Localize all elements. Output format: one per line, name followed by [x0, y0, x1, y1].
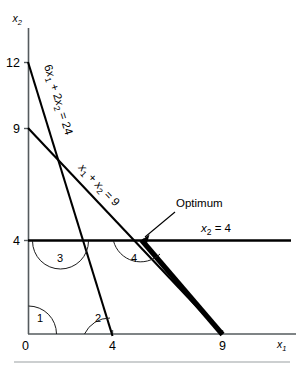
optimum-leader-line	[145, 212, 175, 237]
optimum-label: Optimum	[176, 197, 223, 209]
equation-label-6x1-2x2-24: 6x1 + 2x2 = 24	[39, 63, 75, 138]
y-tick-label-4: 4	[13, 234, 20, 248]
linear-programming-figure: 12 9 4 0 4 9 x2 x1 1 2 3 4 Optimum 6x1 +…	[0, 0, 304, 366]
region-label-3: 3	[57, 252, 63, 264]
x-tick-label-9: 9	[219, 339, 226, 353]
y-axis-label: x2	[12, 12, 23, 27]
region-label-1: 1	[37, 312, 43, 324]
region-label-4: 4	[131, 252, 137, 264]
equation-label-x2-4: x2 = 4	[200, 222, 232, 237]
y-tick-label-12: 12	[6, 56, 20, 70]
origin-label: 0	[22, 339, 29, 353]
constraint-line-6x1-2x2-24	[28, 62, 113, 336]
equation-label-1-group: 6x1 + 2x2 = 24	[39, 63, 75, 138]
y-tick-label-9: 9	[13, 122, 20, 136]
x-tick-label-4: 4	[109, 339, 116, 353]
optimum-boundary-edge	[142, 240, 223, 335]
graph-canvas: 12 9 4 0 4 9 x2 x1 1 2 3 4 Optimum 6x1 +…	[0, 0, 304, 366]
region-label-2: 2	[95, 312, 101, 324]
x-axis-label: x1	[276, 338, 286, 353]
